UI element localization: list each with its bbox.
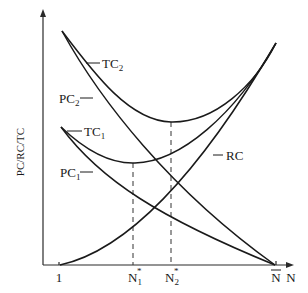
- tc1-label: TC1: [84, 124, 105, 141]
- y-axis-label: PC/RC/TC: [14, 128, 26, 176]
- x-tick-n-bar: N: [271, 270, 281, 285]
- tc1-curve: [61, 43, 276, 163]
- tc2-curve: [62, 31, 276, 122]
- pc2-label: PC2: [59, 91, 79, 108]
- x-tick-n2-star-label: N2*: [165, 266, 179, 287]
- axes: [40, 9, 294, 268]
- x-axis-label: N: [286, 270, 296, 285]
- y-axis-arrow-icon: [40, 9, 46, 17]
- x-tick-n-bar-label: N: [271, 270, 281, 285]
- x-axis-arrow-icon: [286, 262, 294, 268]
- rc-curve: [60, 43, 276, 265]
- cost-diagram: TC2 PC2 TC1 PC1 RC PC/RC/TC 1 N1* N2* N …: [0, 0, 308, 293]
- pc1-label: PC1: [60, 165, 80, 182]
- x-tick-1-label: 1: [56, 270, 63, 285]
- tc2-label: TC2: [102, 56, 123, 73]
- rc-label: RC: [226, 148, 243, 163]
- x-tick-n1-star-label: N1*: [128, 266, 142, 287]
